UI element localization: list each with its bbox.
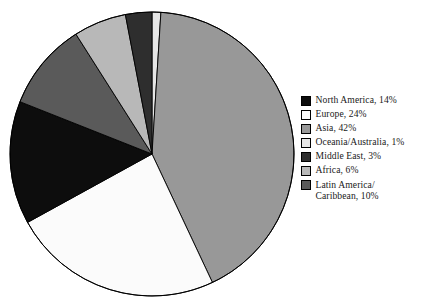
legend-item-europe: Europe, 24% xyxy=(301,108,421,120)
legend-item-oceania-australia: Oceania/Australia, 1% xyxy=(301,136,421,148)
legend-label-asia: Asia, 42% xyxy=(316,122,357,133)
legend-swatch-africa xyxy=(301,166,311,176)
legend-item-north-america: North America, 14% xyxy=(301,94,421,106)
legend-item-middle-east: Middle East, 3% xyxy=(301,150,421,162)
legend-item-asia: Asia, 42% xyxy=(301,122,421,134)
legend-swatch-europe xyxy=(301,110,311,120)
legend-item-africa: Africa, 6% xyxy=(301,164,421,176)
legend-swatch-north-america xyxy=(301,96,311,106)
pie-slice-group xyxy=(10,12,294,296)
legend-swatch-middle-east xyxy=(301,152,311,162)
legend-swatch-latin-america-caribbean xyxy=(301,180,311,190)
legend-item-latin-america-caribbean: Latin America/ Caribbean, 10% xyxy=(301,179,421,201)
legend-swatch-oceania-australia xyxy=(301,138,311,148)
legend-label-middle-east: Middle East, 3% xyxy=(316,150,382,161)
pie-chart-svg xyxy=(8,4,296,300)
legend-label-north-america: North America, 14% xyxy=(316,94,397,105)
pie-chart-figure: North America, 14%Europe, 24%Asia, 42%Oc… xyxy=(0,0,422,304)
chart-legend: North America, 14%Europe, 24%Asia, 42%Oc… xyxy=(301,94,421,204)
legend-label-europe: Europe, 24% xyxy=(316,108,367,119)
legend-label-oceania-australia: Oceania/Australia, 1% xyxy=(316,136,405,147)
legend-label-africa: Africa, 6% xyxy=(316,164,359,175)
legend-label-latin-america-caribbean: Latin America/ Caribbean, 10% xyxy=(316,179,379,201)
legend-swatch-asia xyxy=(301,124,311,134)
pie-chart-plot-area xyxy=(8,4,296,300)
